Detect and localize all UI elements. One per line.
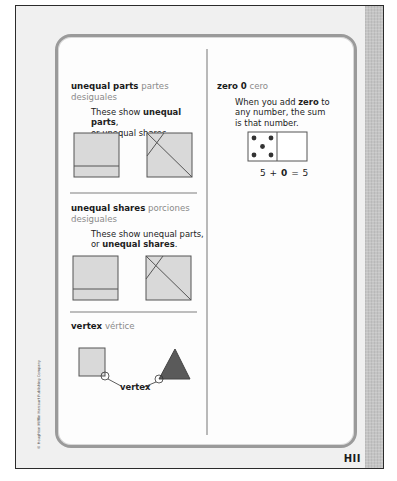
desc-text: any number, the sum xyxy=(235,107,325,117)
domino-dot xyxy=(269,153,274,158)
section-divider xyxy=(70,192,197,194)
desc-text: . xyxy=(175,239,178,249)
square-horizontal-split-figure xyxy=(74,133,119,177)
domino-dot xyxy=(252,153,257,158)
term-english: vertex xyxy=(71,321,102,331)
vertex-square-figure xyxy=(79,348,121,386)
term-zero: zero 0 cero xyxy=(217,81,347,92)
term-spanish-cont: desiguales xyxy=(71,92,117,102)
section-divider xyxy=(70,311,197,313)
term-spanish: partes xyxy=(141,81,168,91)
desc-text: to xyxy=(319,97,330,107)
desc-text: or xyxy=(91,239,102,249)
desc-unequal-shares: These show unequal parts, or unequal sha… xyxy=(91,229,206,250)
term-vertex: vertex vértice xyxy=(71,321,201,332)
eq-a: 5 xyxy=(260,168,266,178)
term-spanish: porciones xyxy=(148,203,190,213)
desc-text: These show xyxy=(91,107,143,117)
desc-text: These show unequal parts, xyxy=(91,229,204,239)
desc-text: , xyxy=(116,117,119,127)
square-diagonal-split-figure xyxy=(146,256,191,300)
page-frame: © Houghton Mifflin Harcourt Publishing C… xyxy=(15,5,384,469)
term-spanish-cont: desiguales xyxy=(71,214,117,224)
eq-equals: = xyxy=(291,168,299,178)
vertex-label: vertex xyxy=(120,382,150,392)
domino-dot xyxy=(260,144,265,149)
desc-zero: When you add zero to any number, the sum… xyxy=(235,97,353,128)
term-spanish: vértice xyxy=(105,321,135,331)
square-horizontal-split-figure xyxy=(73,256,118,300)
desc-bold: zero xyxy=(298,97,318,107)
desc-bold: unequal shares xyxy=(102,239,174,249)
page-number: HII xyxy=(344,453,361,464)
eq-plus: + xyxy=(270,168,278,178)
zero-equation: 5 + 0 = 5 xyxy=(260,168,308,178)
domino-dot xyxy=(269,136,274,141)
term-english: zero xyxy=(217,81,238,91)
square-diagonal-split-figure xyxy=(147,133,192,177)
term-spanish: cero xyxy=(249,81,268,91)
vertex-triangle-figure xyxy=(144,349,190,387)
term-english: unequal parts xyxy=(71,81,138,91)
page-edge-stripe xyxy=(365,6,383,468)
term-unequal-parts: unequal parts partes desiguales xyxy=(71,81,201,102)
eq-result: 5 xyxy=(303,168,309,178)
desc-text: is that number. xyxy=(235,118,299,128)
term-english: unequal shares xyxy=(71,203,145,213)
glossary-card: unequal parts partes desiguales These sh… xyxy=(55,34,357,448)
domino-figure xyxy=(58,37,59,38)
term-symbol: 0 xyxy=(241,81,247,91)
copyright-text: © Houghton Mifflin Harcourt Publishing C… xyxy=(37,360,41,449)
desc-text: When you add xyxy=(235,97,298,107)
eq-b: 0 xyxy=(281,168,287,178)
domino-dot xyxy=(252,136,257,141)
column-divider xyxy=(206,49,208,435)
term-unequal-shares: unequal shares porciones desiguales xyxy=(71,203,201,224)
